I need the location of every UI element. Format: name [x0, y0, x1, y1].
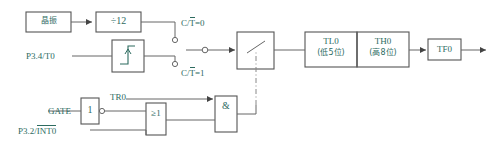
tr0-label: TR0 — [110, 92, 126, 102]
inverter-label: 1 — [81, 105, 99, 115]
and-gate-label: & — [215, 101, 237, 111]
tf0-label: TF0 — [428, 44, 461, 54]
wires — [48, 22, 486, 135]
switch-box — [237, 32, 274, 69]
tl0-label: TL0 — [305, 36, 357, 46]
diagram-canvas — [0, 0, 490, 151]
th0-sublabel: (高8位) — [357, 48, 409, 58]
switch-pole-node — [202, 47, 208, 53]
ct-one-suffix: =1 — [195, 68, 205, 78]
ct-zero-suffix: =0 — [195, 18, 205, 28]
timer-counter-block-diagram: 晶振 ÷12 TL0 (低5位) TH0 (高8位) TF0 1 ≥1 & P3… — [0, 0, 490, 151]
inverter-bubble — [99, 108, 104, 113]
edge-detect-glyph — [120, 46, 135, 64]
gate-label: GATE — [48, 106, 71, 116]
int0-pin-overlined: INT0 — [37, 125, 57, 136]
contact-ct1 — [172, 61, 177, 66]
contact-ct0 — [172, 37, 177, 42]
or-gate-label: ≥1 — [146, 108, 166, 118]
t0-pin-label: P3.4/T0 — [26, 51, 55, 61]
ct-one-prefix: C/ — [181, 68, 190, 78]
ct-one-label: C/T=1 — [181, 67, 205, 78]
int0-pin-prefix: P3.2/ — [18, 126, 37, 136]
wire-divider-to-ct0-contact — [141, 22, 175, 38]
int0-pin-label: P3.2/INT0 — [18, 125, 56, 136]
wire-edge-to-ct1-contact — [144, 56, 175, 62]
wire-and-to-switch-control — [237, 105, 256, 114]
block-outlines — [26, 12, 461, 135]
divider-label: ÷12 — [96, 16, 141, 26]
th0-label: TH0 — [357, 36, 409, 46]
tl0-sublabel: (低5位) — [305, 48, 357, 58]
switch-blade — [247, 41, 265, 53]
ct-zero-label: C/T=0 — [181, 17, 205, 28]
oscillator-label: 晶振 — [26, 16, 71, 26]
ct-zero-prefix: C/ — [181, 18, 190, 28]
